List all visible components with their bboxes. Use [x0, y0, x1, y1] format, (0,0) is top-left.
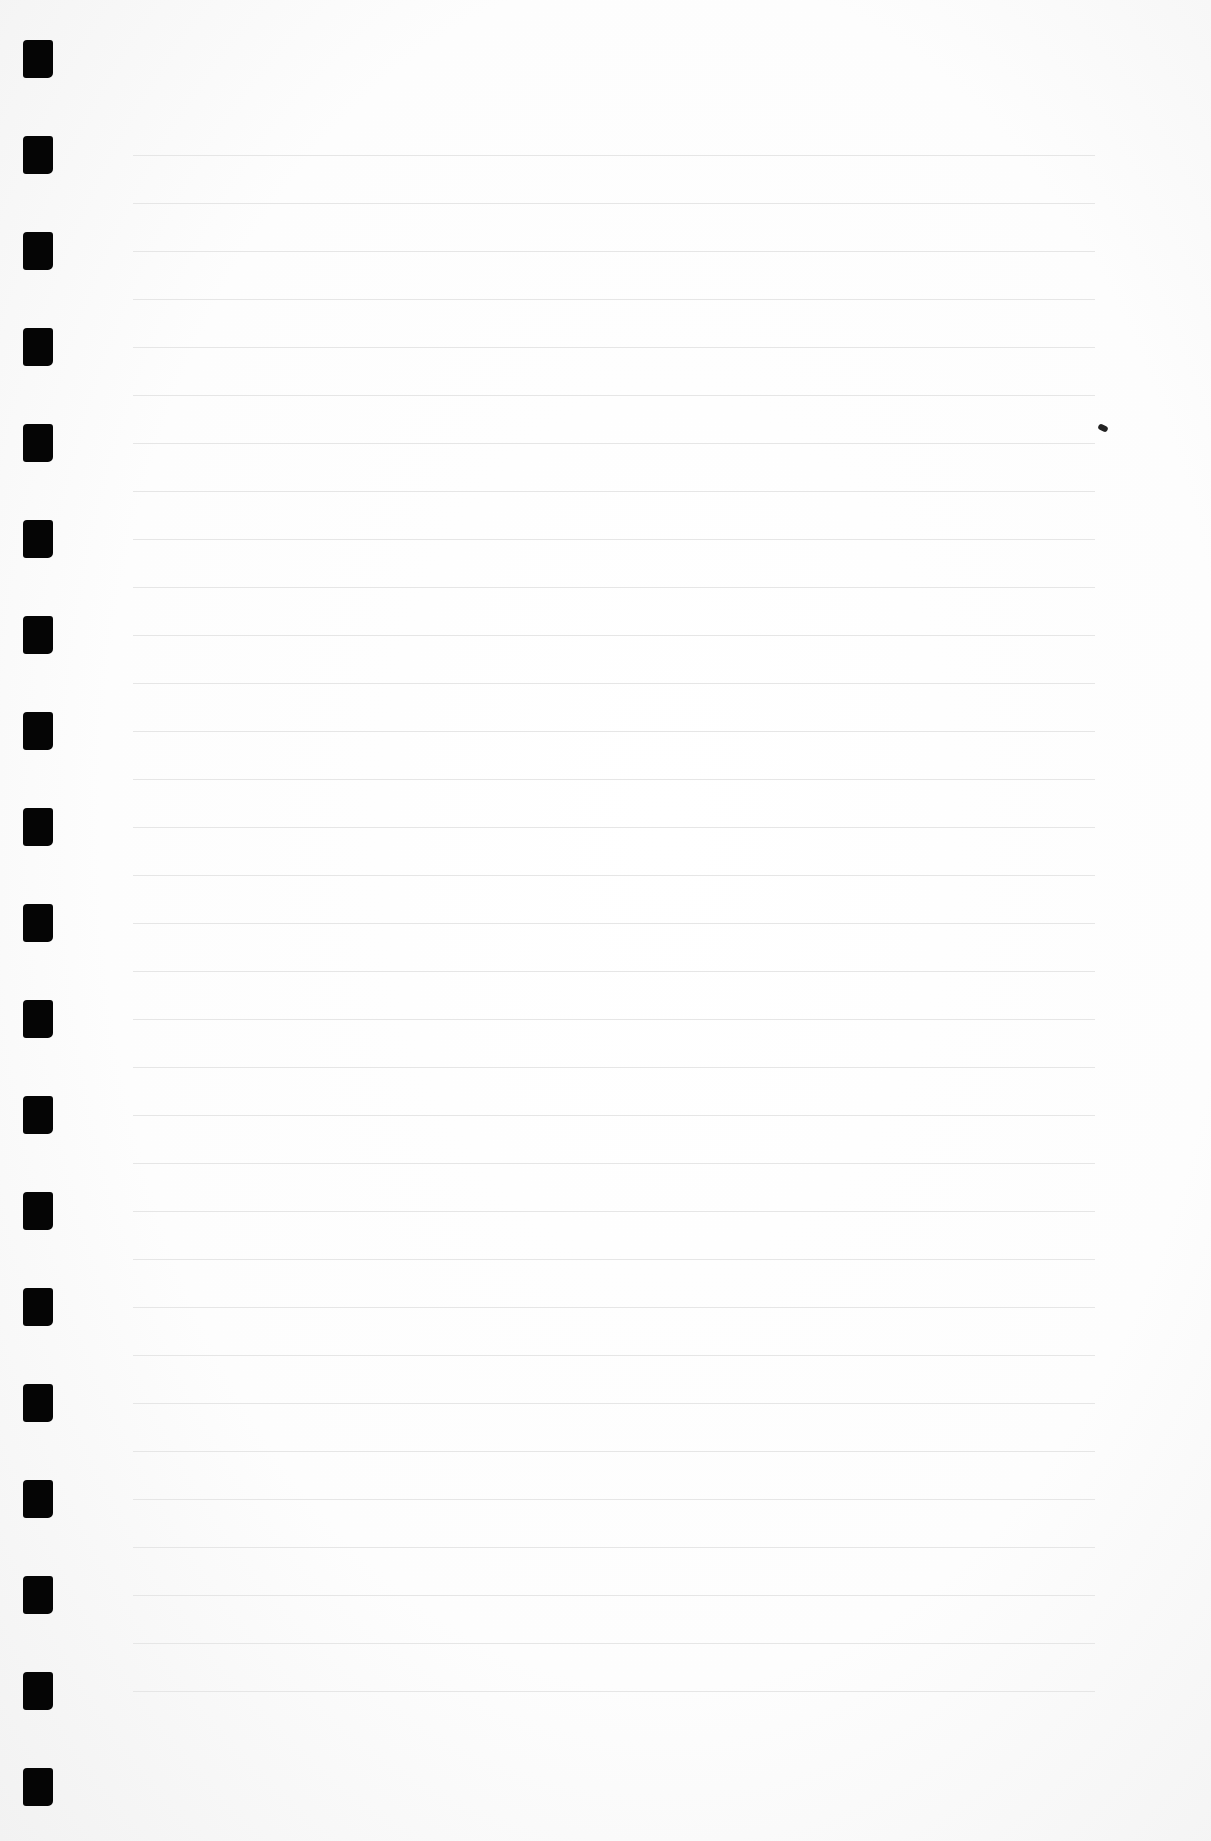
binding-hole — [23, 808, 53, 846]
ruled-line — [133, 395, 1095, 396]
binding-hole — [23, 1288, 53, 1326]
binding-hole — [23, 712, 53, 750]
ruled-line — [133, 1115, 1095, 1116]
binding-hole — [23, 232, 53, 270]
ruled-line — [133, 251, 1095, 252]
binding-hole — [23, 136, 53, 174]
ruled-line — [133, 1355, 1095, 1356]
ruled-line — [133, 491, 1095, 492]
ruled-line — [133, 587, 1095, 588]
binding-hole — [23, 424, 53, 462]
ruled-line — [133, 1019, 1095, 1020]
ruled-line — [133, 683, 1095, 684]
ruled-line — [133, 1067, 1095, 1068]
binding-hole — [23, 616, 53, 654]
binding-hole — [23, 1000, 53, 1038]
ruled-line — [133, 1163, 1095, 1164]
binding-hole — [23, 520, 53, 558]
ruled-line — [133, 1451, 1095, 1452]
ruled-line — [133, 971, 1095, 972]
binding-hole — [23, 1192, 53, 1230]
binding-hole — [23, 1384, 53, 1422]
ruled-line — [133, 539, 1095, 540]
ruled-line — [133, 1403, 1095, 1404]
ruled-line — [133, 1547, 1095, 1548]
ruled-line — [133, 1691, 1095, 1692]
ruled-line — [133, 779, 1095, 780]
ruled-line — [133, 923, 1095, 924]
ruled-line — [133, 203, 1095, 204]
ruled-line — [133, 347, 1095, 348]
ruled-line — [133, 1499, 1095, 1500]
binding-hole — [23, 1768, 53, 1806]
ruled-line — [133, 635, 1095, 636]
notebook-page — [0, 0, 1211, 1841]
ruled-line — [133, 875, 1095, 876]
ink-speck — [1097, 423, 1109, 433]
ruled-line — [133, 1259, 1095, 1260]
binding-hole — [23, 40, 53, 78]
ruled-line — [133, 443, 1095, 444]
ruled-line — [133, 299, 1095, 300]
binding-hole — [23, 1672, 53, 1710]
binding-hole — [23, 1096, 53, 1134]
binding-hole — [23, 1480, 53, 1518]
ruled-line — [133, 731, 1095, 732]
ruled-line — [133, 1595, 1095, 1596]
ruled-line — [133, 1211, 1095, 1212]
ruled-line — [133, 155, 1095, 156]
binding-hole — [23, 1576, 53, 1614]
ruled-line — [133, 1307, 1095, 1308]
binding-hole — [23, 328, 53, 366]
ruled-line — [133, 1643, 1095, 1644]
binding-hole — [23, 904, 53, 942]
ruled-line — [133, 827, 1095, 828]
